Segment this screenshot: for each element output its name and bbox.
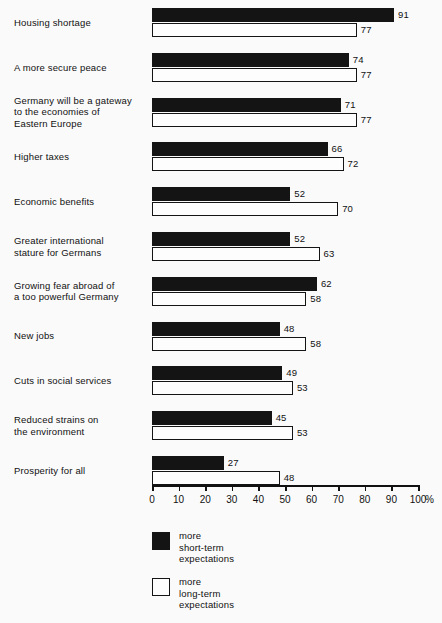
chart-row: Growing fear abroad ofa too powerful Ger… [0,277,442,307]
chart-row: Higher taxes6672 [0,142,442,172]
bar-value-short-term: 91 [398,8,409,22]
chart-row: New jobs4858 [0,322,442,352]
bar-value-short-term: 27 [228,456,239,470]
x-axis-tick-label: 20 [200,494,211,505]
bar-value-long-term: 77 [361,23,372,37]
bar-long-term [152,202,338,216]
bar-short-term [152,322,280,336]
category-label: Prosperity for all [14,465,148,477]
bar-value-short-term: 71 [345,98,356,112]
bar-value-long-term: 53 [297,426,308,440]
bar-long-term [152,247,320,261]
bar-value-long-term: 58 [310,292,321,306]
bar-value-long-term: 77 [361,113,372,127]
bar-value-long-term: 77 [361,68,372,82]
chart-row: Prosperity for all2748 [0,456,442,486]
x-axis-tick-label: 80 [359,494,370,505]
x-axis-tick-label: 40 [253,494,264,505]
x-axis-tick [258,485,260,491]
bar-long-term [152,337,306,351]
bar-long-term [152,68,357,82]
bar-value-long-term: 70 [342,202,353,216]
legend-swatch-dark [152,532,170,550]
bar-short-term [152,53,349,67]
x-axis-tick [179,485,181,491]
bar-value-short-term: 49 [286,366,297,380]
category-label: Growing fear abroad ofa too powerful Ger… [14,280,148,303]
bar-long-term [152,426,293,440]
chart-row: Reduced strains onthe environment4553 [0,411,442,441]
x-axis-tick [205,485,207,491]
category-label: Cuts in social services [14,375,148,387]
bar-value-long-term: 58 [310,337,321,351]
category-label: Economic benefits [14,196,148,208]
x-axis: 0102030405060708090100 [152,485,418,487]
x-axis-tick [418,485,420,491]
x-axis-tick [285,485,287,491]
legend-swatch-light [152,578,170,596]
bar-short-term [152,232,290,246]
category-label: Higher taxes [14,151,148,163]
bar-value-long-term: 63 [324,247,335,261]
bar-value-short-term: 74 [353,53,364,67]
bar-short-term [152,142,328,156]
x-axis-tick-label: 50 [279,494,290,505]
x-axis-tick [232,485,234,491]
x-axis-tick-label: 10 [173,494,184,505]
bar-value-short-term: 48 [284,322,295,336]
chart-row: Economic benefits5270 [0,187,442,217]
x-axis-tick-label: 100 [410,494,427,505]
chart-row: Germany will be a gatewayto the economie… [0,98,442,128]
bar-long-term [152,471,280,485]
bar-short-term [152,98,341,112]
bar-value-long-term: 48 [284,471,295,485]
bar-short-term [152,8,394,22]
bar-value-short-term: 45 [276,411,287,425]
chart-row: Housing shortage9177 [0,8,442,38]
x-axis-tick [312,485,314,491]
category-label: Greater internationalstature for Germans [14,235,148,258]
bar-long-term [152,381,293,395]
bar-long-term [152,113,357,127]
x-axis-tick-label: 60 [306,494,317,505]
bar-chart: Housing shortage9177A more secure peace7… [0,0,442,623]
bar-short-term [152,187,290,201]
x-axis-tick-label: 30 [226,494,237,505]
category-label: Housing shortage [14,17,148,29]
bar-short-term [152,277,317,291]
bar-short-term [152,456,224,470]
category-label: Germany will be a gatewayto the economie… [14,95,148,130]
bar-long-term [152,292,306,306]
bar-long-term [152,157,344,171]
bar-value-short-term: 62 [321,277,332,291]
x-axis-tick [365,485,367,491]
bar-value-short-term: 66 [332,142,343,156]
category-label: New jobs [14,330,148,342]
x-axis-tick-label: 90 [386,494,397,505]
x-axis-tick-label: 0 [149,494,155,505]
bar-short-term [152,411,272,425]
category-label: A more secure peace [14,62,148,74]
legend-label: morelong-termexpectations [179,576,234,611]
chart-row: Greater internationalstature for Germans… [0,232,442,262]
x-axis-tick [152,485,154,491]
x-axis-unit-label: % [425,494,434,505]
bar-value-short-term: 52 [294,187,305,201]
chart-row: A more secure peace7477 [0,53,442,83]
bar-value-short-term: 52 [294,232,305,246]
bar-value-long-term: 72 [348,157,359,171]
bar-long-term [152,23,357,37]
chart-row: Cuts in social services4953 [0,366,442,396]
category-label: Reduced strains onthe environment [14,414,148,437]
legend-label: moreshort-termexpectations [179,530,234,565]
bar-short-term [152,366,282,380]
x-axis-tick [391,485,393,491]
bar-value-long-term: 53 [297,381,308,395]
x-axis-tick [338,485,340,491]
x-axis-tick-label: 70 [333,494,344,505]
